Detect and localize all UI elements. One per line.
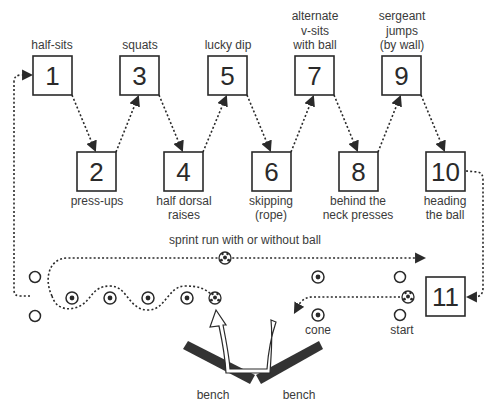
open-circle-marker-icon <box>395 272 406 283</box>
station-number: 1 <box>45 61 59 91</box>
soccer-ball-icon <box>219 252 231 264</box>
station-9: sergeant jumps (by wall) 9 <box>379 9 426 95</box>
arrow-return-to-1 <box>14 75 31 296</box>
cone-icon <box>104 292 116 304</box>
station-7: alternate v-sits with ball 7 <box>292 9 339 95</box>
station-3: squats 3 <box>120 38 159 95</box>
station-11: 11 <box>426 277 465 316</box>
station-number: 3 <box>132 61 146 91</box>
station-label-line-2: the ball <box>426 208 465 222</box>
station-label: half-sits <box>31 38 72 52</box>
station-label-line-1: heading <box>424 194 467 208</box>
station-6: 6 skipping (rope) <box>249 152 293 222</box>
station-label-line-1: sergeant <box>379 9 426 23</box>
open-circle-marker-icon <box>395 310 406 321</box>
start-to-bench-path <box>295 297 400 312</box>
arrow-3-to-4 <box>159 95 182 150</box>
station-number: 6 <box>264 157 278 187</box>
arrow-6-to-7 <box>291 97 313 152</box>
station-label-line-1: half dorsal <box>156 194 211 208</box>
station-number: 4 <box>176 157 190 187</box>
station-label: squats <box>122 38 157 52</box>
bench-label-right: bench <box>283 388 316 402</box>
station-number: 9 <box>394 61 408 91</box>
soccer-ball-icon <box>209 292 221 304</box>
station-5: lucky dip 5 <box>205 38 252 95</box>
sprint-run-path <box>48 258 424 296</box>
cone-icon <box>181 292 193 304</box>
bench-label-left: bench <box>197 388 230 402</box>
open-circle-marker-icon <box>30 272 41 283</box>
station-8: 8 behind the neck presses <box>323 152 394 222</box>
open-circle-marker-icon <box>30 311 41 322</box>
station-label-line-3: with ball <box>292 38 336 52</box>
station-number: 2 <box>89 157 103 187</box>
cone-icon <box>142 292 154 304</box>
arrow-2-to-3 <box>116 97 138 152</box>
station-number: 7 <box>307 61 321 91</box>
station-number: 11 <box>432 282 459 312</box>
station-number: 10 <box>431 157 460 187</box>
cone-icon <box>66 292 78 304</box>
arrow-4-to-5 <box>203 97 226 152</box>
start-label: start <box>390 323 414 337</box>
station-label-line-2: neck presses <box>323 208 394 222</box>
station-label: lucky dip <box>205 38 252 52</box>
cone-icon <box>312 271 324 283</box>
station-label-line-1: skipping <box>249 194 293 208</box>
sprint-run-label: sprint run with or without ball <box>169 233 321 247</box>
station-4: 4 half dorsal raises <box>156 152 211 222</box>
station-1: half-sits 1 <box>31 38 72 95</box>
station-label-line-1: behind the <box>330 194 386 208</box>
arrow-10-to-11 <box>466 171 483 297</box>
station-label-line-2: v-sits <box>301 24 329 38</box>
station-number: 8 <box>351 157 365 187</box>
arrow-8-to-9 <box>378 97 400 152</box>
soccer-ball-icon <box>402 291 414 303</box>
station-label: press-ups <box>71 194 124 208</box>
circuit-training-diagram: half-sits 1 squats 3 lucky dip 5 alterna… <box>0 0 492 407</box>
station-number: 5 <box>220 61 234 91</box>
cone-icon <box>312 309 324 321</box>
arrow-1-to-2 <box>72 95 95 150</box>
station-2: 2 press-ups <box>71 152 124 208</box>
station-10: 10 heading the ball <box>424 152 467 222</box>
station-label-line-2: raises <box>168 208 200 222</box>
station-label-line-1: alternate <box>292 9 339 23</box>
arrow-7-to-8 <box>334 95 357 150</box>
bench-icon-left <box>183 341 255 384</box>
cone-label: cone <box>305 323 331 337</box>
arrow-9-to-10 <box>421 95 444 150</box>
station-label-line-2: (rope) <box>255 208 287 222</box>
station-label-line-3: (by wall) <box>380 38 425 52</box>
station-label-line-2: jumps <box>385 24 418 38</box>
bench-icon-right <box>256 341 323 384</box>
arrow-5-to-6 <box>247 95 270 150</box>
